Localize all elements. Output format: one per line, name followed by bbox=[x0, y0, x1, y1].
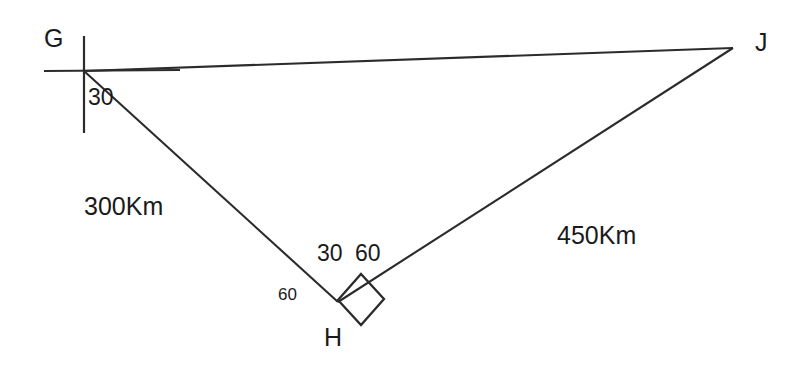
triangle-side-gh bbox=[84, 71, 338, 302]
geometry-diagram-canvas: G J H 30 300Km 450Km 30 60 60 bbox=[0, 0, 802, 371]
triangle-side-gj bbox=[84, 48, 733, 71]
side-length-label-hj: 450Km bbox=[557, 223, 636, 248]
angle-label-at-g: 30 bbox=[88, 86, 114, 109]
vertex-label-j: J bbox=[755, 30, 768, 55]
angle-label-at-h-left: 30 bbox=[317, 242, 343, 265]
vertex-label-h: H bbox=[324, 325, 342, 350]
side-length-label-gh: 300Km bbox=[84, 194, 163, 219]
angle-label-at-h-outer: 60 bbox=[278, 286, 297, 303]
angle-label-at-h-right: 60 bbox=[355, 242, 381, 265]
triangle-figure-svg bbox=[0, 0, 802, 371]
triangle-side-hj bbox=[338, 48, 733, 302]
right-angle-marker-icon bbox=[338, 274, 384, 325]
vertex-label-g: G bbox=[44, 26, 63, 51]
